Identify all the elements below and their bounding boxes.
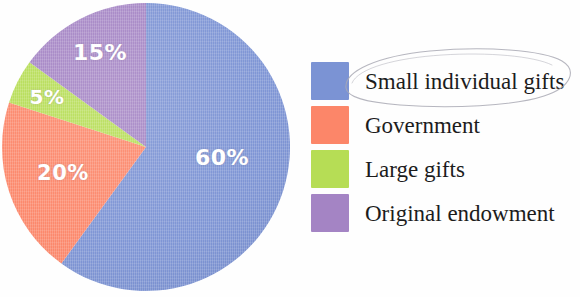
- pie-chart: 60% 20% 5% 15%: [0, 0, 295, 297]
- legend-color-swatch-small-individual-gifts: [311, 62, 349, 100]
- slice-data-label-original-endowment: 15%: [73, 40, 127, 65]
- legend-item-large-gifts[interactable]: Large gifts: [311, 150, 580, 188]
- legend-label-small-individual-gifts: Small individual gifts: [365, 70, 564, 93]
- pie-chart-figure: 60% 20% 5% 15% Small individual gifts Go…: [0, 0, 580, 297]
- legend: Small individual gifts Government Large …: [311, 62, 580, 238]
- legend-item-original-endowment[interactable]: Original endowment: [311, 194, 580, 232]
- legend-color-swatch-original-endowment: [311, 194, 349, 232]
- legend-label-large-gifts: Large gifts: [365, 158, 465, 181]
- slice-data-label-government: 20%: [37, 161, 89, 185]
- legend-label-original-endowment: Original endowment: [365, 202, 555, 225]
- legend-item-government[interactable]: Government: [311, 106, 580, 144]
- slice-data-label-large-gifts: 5%: [30, 85, 65, 109]
- legend-color-swatch-government: [311, 106, 349, 144]
- legend-item-small-individual-gifts[interactable]: Small individual gifts: [311, 62, 580, 100]
- legend-color-swatch-large-gifts: [311, 150, 349, 188]
- slice-data-label-small-individual-gifts: 60%: [195, 145, 249, 170]
- legend-label-government: Government: [365, 114, 480, 137]
- pie-svg: [0, 0, 295, 297]
